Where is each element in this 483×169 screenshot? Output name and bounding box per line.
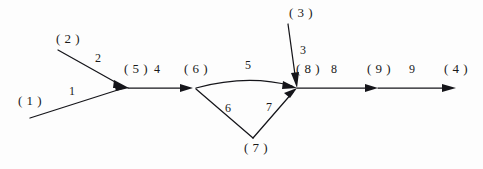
edge-8 <box>297 84 378 92</box>
edge-1 <box>30 84 129 118</box>
node-label-4: ( 4 ) <box>444 61 468 76</box>
edge-label-7: 7 <box>266 100 272 114</box>
edge-7 <box>253 88 297 138</box>
node-label-9: ( 9 ) <box>367 61 391 76</box>
edge-label-6: 6 <box>225 101 231 115</box>
edge-label-9: 9 <box>409 62 415 76</box>
edge-7-arrowhead <box>284 88 297 98</box>
edge-label-2: 2 <box>95 51 101 65</box>
graph-canvas: ( 1 ) ( 2 ) ( 3 ) ( 4 ) ( 5 ) ( 6 ) ( 7 … <box>0 0 483 169</box>
edge-9 <box>378 84 456 92</box>
edge-label-3: 3 <box>300 43 306 57</box>
edge-label-4: 4 <box>154 62 160 76</box>
edge-label-5: 5 <box>245 58 251 72</box>
node-label-5: ( 5 ) <box>124 61 148 76</box>
edge-2-arrowhead <box>113 80 129 88</box>
node-label-6: ( 6 ) <box>184 61 208 76</box>
node-label-3: ( 3 ) <box>289 5 313 20</box>
edge-3 <box>288 24 299 88</box>
edge-1-line <box>30 88 124 118</box>
edge-2 <box>58 50 129 88</box>
graph-diagram: ( 1 ) ( 2 ) ( 3 ) ( 4 ) ( 5 ) ( 6 ) ( 7 … <box>0 0 483 169</box>
edge-8-arrowhead <box>365 84 378 92</box>
edge-5 <box>196 80 297 89</box>
edge-7-line <box>253 92 293 138</box>
node-label-7: ( 7 ) <box>244 140 268 155</box>
edge-4 <box>128 84 193 92</box>
node-label-2: ( 2 ) <box>56 31 80 46</box>
edge-label-8: 8 <box>331 62 337 76</box>
edge-label-1: 1 <box>69 84 75 98</box>
edge-9-arrowhead <box>442 84 456 92</box>
node-label-8: ( 8 ) <box>296 61 320 76</box>
edge-5-line <box>196 80 292 88</box>
edge-4-arrowhead <box>180 84 193 92</box>
node-label-1: ( 1 ) <box>18 93 42 108</box>
